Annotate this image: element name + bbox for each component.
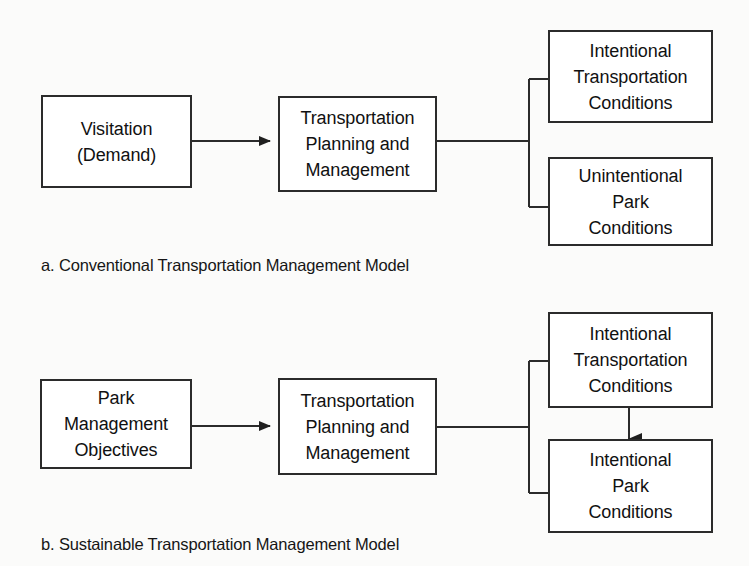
node-a-outcome-unintentional-park-conditions: Unintentional Park Conditions	[548, 157, 713, 246]
caption-diagram-a: a. Conventional Transportation Managemen…	[41, 255, 409, 275]
connector-b-process-to-outcomes	[437, 361, 548, 493]
caption-diagram-b: b. Sustainable Transportation Management…	[41, 534, 399, 554]
connector-a-process-to-outcomes	[437, 79, 548, 207]
diagram-canvas: Visitation (Demand) Transportation Plann…	[0, 0, 749, 566]
node-b-outcome-intentional-park-conditions: Intentional Park Conditions	[548, 439, 713, 533]
node-b-source-park-management-objectives: Park Management Objectives	[40, 379, 192, 469]
node-b-process-transportation-planning-and-management: Transportation Planning and Management	[278, 378, 437, 475]
node-b-outcome-intentional-transportation-conditions: Intentional Transportation Conditions	[548, 312, 713, 408]
node-a-outcome-intentional-transportation-conditions: Intentional Transportation Conditions	[548, 30, 713, 123]
node-a-source-visitation-demand: Visitation (Demand)	[41, 95, 192, 188]
node-a-process-transportation-planning-and-management: Transportation Planning and Management	[278, 96, 437, 192]
